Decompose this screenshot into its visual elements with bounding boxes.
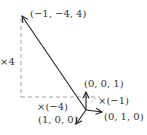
scale-y-label: ×(−4): [37, 102, 68, 112]
e3-label: (0, 0, 1): [84, 79, 124, 89]
e2-arrow: [86, 110, 102, 112]
dashed-x-guide: [91, 98, 96, 102]
scale-z-label: ×4: [0, 57, 15, 67]
scale-x-label: ×(−1): [98, 96, 129, 106]
e2-label: (0, 1, 0): [104, 112, 144, 122]
big-vector-label: (−1, −4, 4): [30, 9, 86, 19]
e1-label: (1, 0, 0): [38, 115, 78, 125]
big-vector-arrow: [22, 16, 86, 110]
